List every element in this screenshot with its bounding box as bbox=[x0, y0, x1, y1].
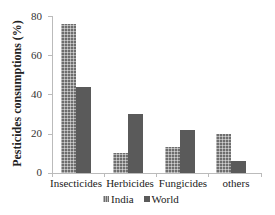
y-tick-80: 80 bbox=[22, 11, 42, 22]
legend: India World bbox=[103, 193, 179, 205]
bar-india-others bbox=[216, 134, 231, 173]
bar-india-fungicides bbox=[165, 147, 180, 173]
bar-chart: Pesticides consumptions (%) 80 60 40 20 … bbox=[0, 0, 275, 215]
x-label-insecticides: Insecticides bbox=[46, 177, 106, 189]
x-label-others: others bbox=[206, 177, 266, 189]
legend-item-india: India bbox=[103, 193, 134, 205]
y-tickmark bbox=[48, 134, 52, 135]
india-swatch-icon bbox=[103, 196, 109, 202]
y-tickmark bbox=[48, 55, 52, 56]
bar-india-herbicides bbox=[113, 153, 128, 173]
y-tick-60: 60 bbox=[22, 50, 42, 61]
bar-world-insecticides bbox=[76, 87, 91, 173]
x-axis bbox=[52, 173, 262, 174]
bar-india-insecticides bbox=[61, 24, 76, 173]
bar-world-herbicides bbox=[128, 114, 143, 173]
y-tick-0: 0 bbox=[22, 167, 42, 178]
y-tickmark bbox=[48, 94, 52, 95]
x-label-herbicides: Herbicides bbox=[100, 177, 160, 189]
x-label-fungicides: Fungicides bbox=[153, 177, 213, 189]
bar-world-others bbox=[231, 161, 246, 173]
y-tick-20: 20 bbox=[22, 128, 42, 139]
bar-world-fungicides bbox=[180, 130, 195, 173]
legend-item-world: World bbox=[144, 193, 179, 205]
y-tickmark bbox=[48, 16, 52, 17]
world-swatch-icon bbox=[144, 196, 150, 202]
y-tick-40: 40 bbox=[22, 89, 42, 100]
legend-label-india: India bbox=[111, 193, 134, 205]
legend-label-world: World bbox=[152, 193, 179, 205]
y-axis bbox=[52, 16, 53, 174]
